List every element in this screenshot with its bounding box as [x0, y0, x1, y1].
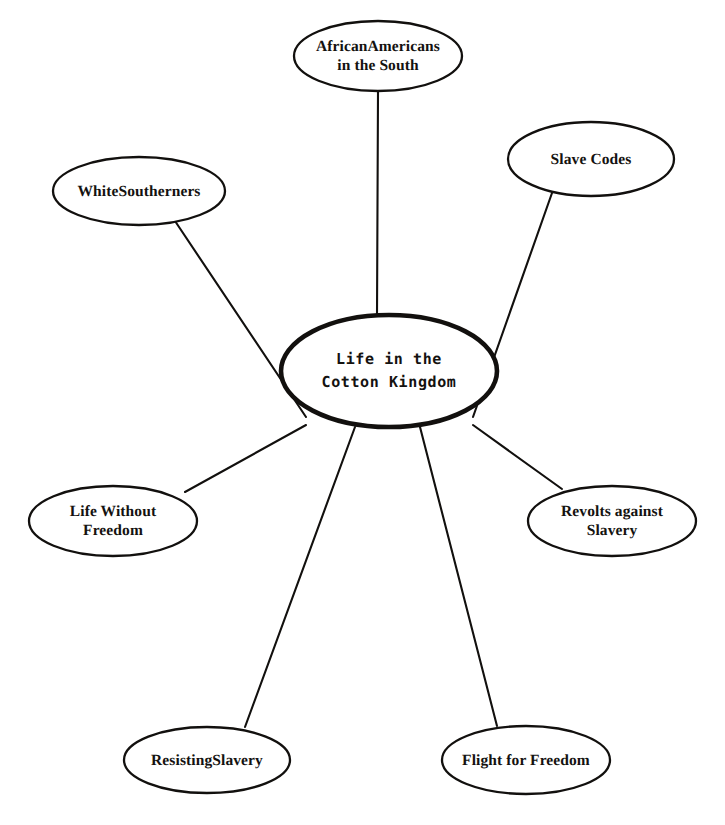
node-ellipse-flight-for-freedom[interactable] — [442, 726, 610, 794]
node-ellipse-life-without-freedom[interactable] — [29, 486, 197, 556]
nodes-layer — [29, 21, 696, 794]
node-ellipse-revolts-against-slavery[interactable] — [528, 486, 696, 556]
node-ellipse-resisting-slavery[interactable] — [124, 727, 290, 793]
edge-center-life-without-freedom — [185, 425, 306, 492]
node-ellipse-center[interactable] — [281, 315, 497, 427]
edge-center-african-americans — [377, 92, 378, 316]
node-ellipse-african-americans-in-the-south[interactable] — [294, 21, 462, 91]
concept-map-diagram: Life in the Cotton KingdomAfricanAmerica… — [0, 0, 725, 825]
node-ellipse-white-southerners[interactable] — [53, 157, 225, 225]
node-ellipse-slave-codes[interactable] — [508, 122, 674, 196]
edge-center-resisting-slavery — [245, 427, 355, 727]
edge-center-revolts-against-slavery — [473, 425, 562, 489]
edge-center-flight-for-freedom — [420, 427, 497, 726]
diagram-canvas — [0, 0, 725, 825]
